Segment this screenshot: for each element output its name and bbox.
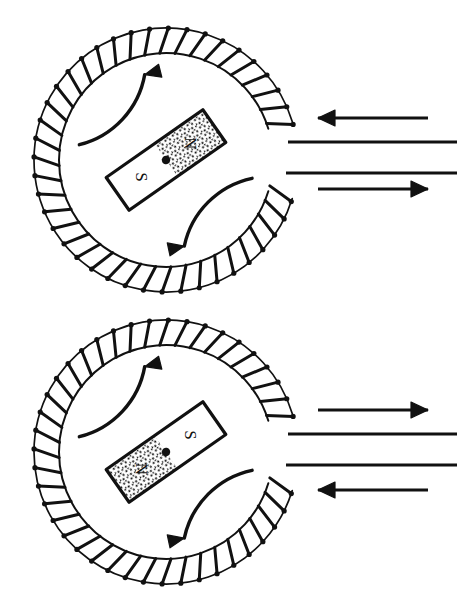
rotation-arrowhead (167, 535, 184, 548)
coil-node-dot (32, 173, 37, 178)
coil-turn (97, 340, 103, 366)
coil-turn (250, 519, 263, 542)
current-arrowhead (411, 402, 428, 418)
coil-turn (130, 33, 131, 60)
coil-node-dot (289, 491, 294, 496)
coil-turn (242, 75, 267, 85)
coil-node-dot (54, 84, 59, 89)
coil-turn (125, 264, 141, 286)
coil-node-dot (272, 232, 277, 237)
coil-node-dot (33, 136, 38, 141)
coil-turn (205, 41, 223, 60)
rotation-arrowhead (145, 356, 162, 369)
coil-node-dot (282, 216, 287, 221)
rotation-arrow-lower-right (167, 178, 252, 256)
coil-turn (265, 492, 284, 511)
coil-node-dot (184, 27, 189, 32)
coil-node-dot (284, 396, 289, 401)
coil-node-dot (220, 38, 225, 43)
rotation-arrowhead (145, 64, 162, 77)
coil-turn (258, 506, 274, 527)
coil-turn (97, 48, 103, 74)
coil-turn (240, 238, 250, 263)
coil-node-dot (89, 558, 94, 563)
coil-turn (45, 209, 71, 211)
coil-node-dot (203, 323, 208, 328)
bar-magnet[interactable]: NS (106, 402, 226, 502)
coil-turn (34, 449, 59, 458)
coil-node-dot (284, 104, 289, 109)
coil-turn (252, 90, 278, 97)
coil-node-dot (65, 361, 70, 366)
coil-node-dot (291, 414, 296, 419)
coil-node-dot (105, 276, 110, 281)
coil-turn (160, 320, 169, 345)
rotation-arrowhead (167, 243, 184, 256)
current-arrowhead (318, 482, 335, 498)
coil-turn (92, 545, 113, 561)
coil-turn (108, 551, 126, 570)
coil-turn (267, 123, 294, 124)
coil-turn (40, 120, 62, 135)
coil-node-dot (203, 31, 208, 36)
coil-turn (260, 399, 286, 402)
coil-node-dot (51, 518, 56, 523)
coil-turn (218, 50, 239, 67)
coil-node-dot (275, 380, 280, 385)
magnet-south-label: S (132, 172, 151, 181)
bar-magnet[interactable]: NS (106, 110, 226, 210)
coil-turn (53, 222, 79, 228)
coil-turn (215, 547, 217, 573)
coil-node-dot (166, 317, 171, 322)
coil-turn (175, 322, 187, 346)
coil-turn (258, 214, 274, 235)
galvanometer-diagram: NSNS (0, 0, 457, 609)
coil-turn (64, 234, 89, 244)
figure-root: NSNS (0, 0, 457, 609)
coil-node-dot (74, 255, 79, 260)
coil-turn (160, 28, 169, 53)
coil-node-dot (129, 30, 134, 35)
coil-turn (57, 378, 73, 399)
coil-node-dot (197, 285, 202, 290)
coil-node-dot (45, 100, 50, 105)
coil-turn (64, 526, 89, 536)
coil-node-dot (36, 483, 41, 488)
coil-turn (231, 354, 254, 367)
coil-turn (143, 267, 155, 291)
coil-node-dot (111, 36, 116, 41)
coil-node-dot (291, 122, 296, 127)
coil-turn (190, 34, 205, 56)
coil-turn (228, 539, 234, 565)
coil-turn (205, 333, 223, 352)
coil-node-dot (129, 322, 134, 327)
coil-turn (113, 331, 116, 357)
coil-turn (38, 194, 65, 195)
coil-node-dot (184, 319, 189, 324)
coil-node-dot (94, 337, 99, 342)
coil-node-dot (123, 283, 128, 288)
coil-turn (113, 39, 116, 65)
coil-node-dot (231, 563, 236, 568)
coil-turn (77, 536, 100, 549)
coil-node-dot (38, 409, 43, 414)
coil-turn (53, 514, 79, 520)
coil-turn (181, 557, 186, 583)
coil-node-dot (51, 226, 56, 231)
coil-turn (143, 559, 155, 583)
coil-node-dot (33, 428, 38, 433)
rotation-arrow-lower-right (167, 470, 252, 548)
coil-node-dot (275, 88, 280, 93)
coil-turn (45, 501, 71, 503)
magnet-north-label: N (181, 137, 200, 149)
coil-turn (77, 244, 100, 257)
coil-node-dot (147, 318, 152, 323)
coil-node-dot (147, 26, 152, 31)
coil-turn (68, 364, 81, 387)
coil-node-dot (36, 191, 41, 196)
coil-turn (252, 382, 278, 389)
coil-node-dot (251, 59, 256, 64)
coil-node-dot (54, 376, 59, 381)
coil-turn (82, 59, 92, 84)
coil-turn (145, 29, 150, 55)
